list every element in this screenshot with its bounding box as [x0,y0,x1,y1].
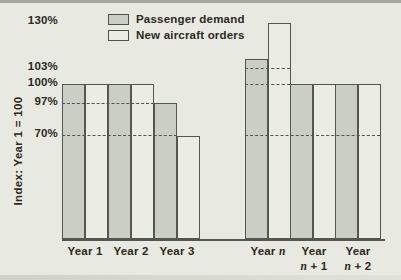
y-tick-label: 100% [12,76,58,88]
bar-passenger-demand-year-n-plus-2 [335,84,358,239]
bar-new-aircraft-orders-year-3 [177,136,200,239]
x-tick-label: Year 3 [135,244,219,259]
gridline-dashed [245,135,380,136]
y-tick-label: 103% [12,60,58,72]
y-tick-label: 97% [12,95,58,107]
legend-item: New aircraft orders [108,28,245,42]
legend-swatch-new-aircraft-orders [108,30,129,41]
bar-new-aircraft-orders-year-1 [85,84,108,239]
legend-swatch-passenger-demand [108,14,129,25]
legend-label: Passenger demand [136,13,245,25]
bar-passenger-demand-year-3 [154,103,177,239]
x-tick-label: Yearn + 2 [316,244,400,273]
bar-chart: Passenger demand New aircraft orders Ind… [0,0,401,280]
gridline-dashed [62,135,177,136]
page-edge-top [0,0,401,3]
bar-new-aircraft-orders-year-n-plus-2 [358,84,381,239]
bar-passenger-demand-year-2 [108,84,131,239]
bar-new-aircraft-orders-year-n-plus-1 [313,84,336,239]
bar-passenger-demand-year-n-plus-1 [290,84,313,239]
legend: Passenger demand New aircraft orders [108,12,245,44]
gridline-dashed [245,84,290,85]
legend-item: Passenger demand [108,12,245,26]
legend-label: New aircraft orders [136,29,245,41]
bar-passenger-demand-year-1 [62,84,85,239]
gridline-dashed [245,68,290,69]
page-edge-bottom [0,275,401,280]
bar-new-aircraft-orders-year-n [268,23,291,239]
bar-new-aircraft-orders-year-2 [131,84,154,239]
gridline-dashed [62,103,154,104]
y-tick-label: 130% [12,14,58,26]
y-tick-label: 70% [12,127,58,139]
x-axis-line [62,239,385,241]
bar-passenger-demand-year-n [245,59,268,239]
